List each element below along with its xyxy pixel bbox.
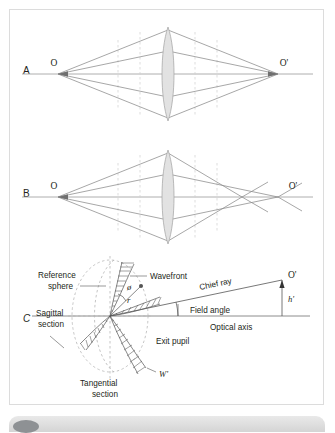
azimuth-angle-arc — [118, 294, 126, 301]
lens-element-b — [162, 150, 174, 244]
object-label-b: O — [51, 181, 58, 191]
azimuth-angle-label: ø — [126, 282, 132, 292]
chief-ray-label: Chief ray — [199, 276, 234, 292]
reference-sphere-label-line2: sphere — [48, 282, 73, 291]
object-label-a: O — [51, 58, 58, 68]
sagittal-label-line1: Sagittal — [36, 309, 63, 318]
wavefront-label: Wavefront — [150, 272, 188, 281]
sagittal-leader — [50, 336, 64, 348]
figure-frame: A — [9, 9, 324, 405]
image-point-label-c: O' — [288, 270, 297, 280]
panel-b-diagram: O O' — [10, 133, 325, 261]
tangential-label-line1: Tangential — [80, 379, 118, 388]
sagittal-label-line2: section — [38, 320, 64, 329]
panel-c-diagram: ø r O' h' W' Reference sphere Wavefront — [10, 258, 325, 406]
image-height-label: h' — [288, 294, 294, 304]
wavefront-lobe-lower-right — [110, 316, 146, 374]
image-label-b: O' — [289, 181, 298, 191]
panel-a-diagram: O O' — [10, 10, 325, 138]
wavefront-symbol-leader — [147, 368, 156, 372]
field-angle-label: Field angle — [190, 306, 231, 315]
optical-axis-label: Optical axis — [210, 323, 252, 332]
pupil-point-marker — [139, 284, 143, 288]
bottom-scroll-bar[interactable] — [9, 416, 325, 432]
lens-element-a — [162, 27, 174, 121]
tangential-label-line2: section — [92, 390, 118, 399]
image-height-arrow — [279, 280, 284, 288]
wavefront-symbol-label: W' — [159, 369, 168, 379]
image-label-a: O' — [280, 58, 289, 68]
reference-sphere-label-line1: Reference — [38, 271, 76, 280]
exit-pupil-label: Exit pupil — [156, 337, 189, 346]
bottom-scroll-handle[interactable] — [13, 420, 39, 433]
